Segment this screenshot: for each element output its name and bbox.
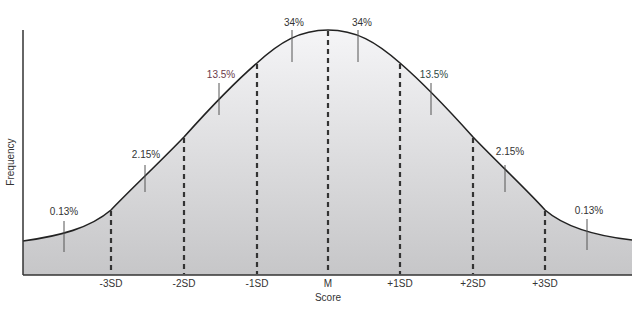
- pct-label-4: 34%: [284, 17, 304, 28]
- pct-label-5: 34%: [352, 17, 372, 28]
- pct-label-7: 2.15%: [496, 146, 524, 157]
- normal-distribution-chart: [0, 0, 644, 314]
- tick-minus-2sd: -2SD: [173, 278, 196, 289]
- y-axis-label-text: Frequency: [5, 138, 16, 185]
- x-axis-label: Score: [315, 292, 341, 303]
- tick-mean: M: [324, 278, 332, 289]
- tick-plus-1sd: +1SD: [387, 278, 412, 289]
- pct-label-8: 0.13%: [575, 205, 603, 216]
- pct-label-2: 2.15%: [132, 149, 160, 160]
- pct-label-3: 13.5%: [207, 69, 235, 80]
- pct-label-6: 13.5%: [420, 69, 448, 80]
- tick-plus-3sd: +3SD: [532, 278, 557, 289]
- tick-minus-3sd: -3SD: [100, 278, 123, 289]
- y-axis-label: Frequency: [5, 155, 16, 169]
- tick-minus-1sd: -1SD: [246, 278, 269, 289]
- tick-plus-2sd: +2SD: [460, 278, 485, 289]
- pct-label-1: 0.13%: [50, 206, 78, 217]
